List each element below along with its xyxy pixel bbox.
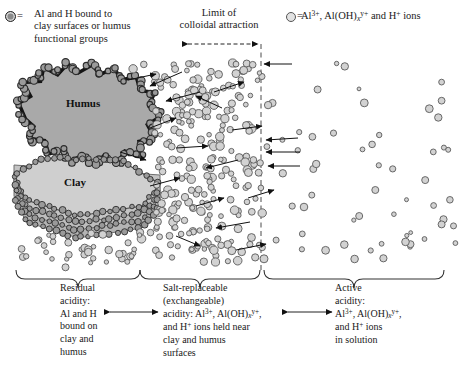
bound-ion-legend-icon	[5, 11, 16, 22]
salt-body-2: and H+ ions held near	[163, 321, 287, 334]
limit-of-colloidal-attraction-label: Limit of colloidal attraction	[163, 7, 275, 32]
limit-line2: colloidal attraction	[163, 19, 275, 31]
legend-left-line3: functional groups	[34, 33, 184, 45]
residual-body-1: Al and H	[60, 308, 122, 321]
caption-active-acidity: Active acidity: Al3+, Al(OH)xy+, and H+ …	[335, 282, 445, 347]
salt-title-1: Salt-replaceable	[163, 282, 287, 295]
salt-title-2: (exchangeable)	[163, 295, 287, 308]
caption-salt-replaceable-acidity: Salt-replaceable (exchangeable) acidity:…	[163, 282, 287, 360]
active-title-2: acidity:	[335, 295, 445, 308]
active-body-1: Al3+, Al(OH)xy+,	[335, 308, 445, 322]
residual-body-4: humus	[60, 346, 122, 359]
legend-left-line2: clay surfaces or humus	[34, 20, 184, 32]
active-body-2: and H+ ions	[335, 321, 445, 334]
active-title-1: Active	[335, 282, 445, 295]
limit-line1: Limit of	[163, 7, 275, 19]
humus-label: Humus	[66, 97, 100, 110]
residual-body-3: clay and	[60, 333, 122, 346]
legend-bound-ions: Al and H bound to clay surfaces or humus…	[24, 8, 184, 45]
active-body-3: in solution	[335, 334, 445, 347]
salt-body-3: clay and humus	[163, 334, 287, 347]
legend-right-formula: Al3+, Al(OH)xy+ and H+ ions	[301, 10, 421, 21]
clay-label: Clay	[64, 176, 86, 189]
residual-body-2: bound on	[60, 320, 122, 333]
diagram-canvas: = Al and H bound to clay surfaces or hum…	[0, 0, 461, 365]
salt-body-4: surfaces	[163, 347, 287, 360]
residual-title-2: acidity:	[60, 295, 122, 308]
legend-left-equals: =	[17, 10, 23, 21]
free-ion-legend-icon	[286, 12, 296, 22]
legend-free-ions: Al3+, Al(OH)xy+ and H+ ions	[301, 10, 461, 24]
legend-left-line1: Al and H bound to	[34, 8, 184, 20]
salt-body-1: acidity: Al3+, Al(OH)xy+,	[163, 308, 287, 322]
caption-residual-acidity: Residual acidity: Al and H bound on clay…	[60, 282, 122, 359]
residual-title-1: Residual	[60, 282, 122, 295]
